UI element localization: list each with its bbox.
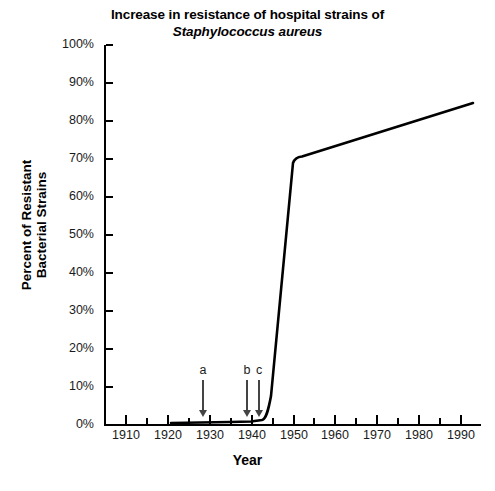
annotation-c-arrowhead-icon [255, 410, 263, 417]
annotation-c-label: c [249, 363, 269, 377]
annotation-b-arrowhead-icon [243, 410, 251, 417]
y-axis-title-line-2: Bacterial Strains [34, 105, 49, 345]
annotation-a-shaft [202, 380, 204, 412]
plot-area: 100% 90% 80% 70% 60% 50% 40% 30% 20% 10%… [0, 0, 495, 491]
annotation-a-arrowhead-icon [199, 410, 207, 417]
annotation-a-label: a [193, 363, 213, 377]
data-line-series [0, 0, 495, 491]
annotation-c-shaft [258, 380, 260, 412]
annotation-b-shaft [246, 380, 248, 412]
chart-figure: Increase in resistance of hospital strai… [0, 0, 495, 491]
y-axis-title-line-1: Percent of Resistant [19, 105, 34, 345]
x-axis-title: Year [0, 452, 495, 468]
y-axis-title: Percent of Resistant Bacterial Strains [19, 105, 49, 345]
